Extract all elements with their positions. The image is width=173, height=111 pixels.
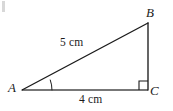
side-AB-line: [22, 23, 148, 90]
angle-arc-icon: [50, 80, 52, 90]
right-angle-square-icon: [139, 81, 148, 90]
scan-artifact-speck: [2, 1, 5, 12]
vertex-label-B: B: [146, 6, 154, 19]
geometry-figure: A B C 5 cm 4 cm: [0, 0, 173, 111]
side-length-label-AB: 5 cm: [60, 37, 83, 49]
side-length-label-AC: 4 cm: [79, 94, 102, 106]
vertex-label-A: A: [8, 81, 16, 94]
vertex-label-C: C: [150, 84, 159, 97]
